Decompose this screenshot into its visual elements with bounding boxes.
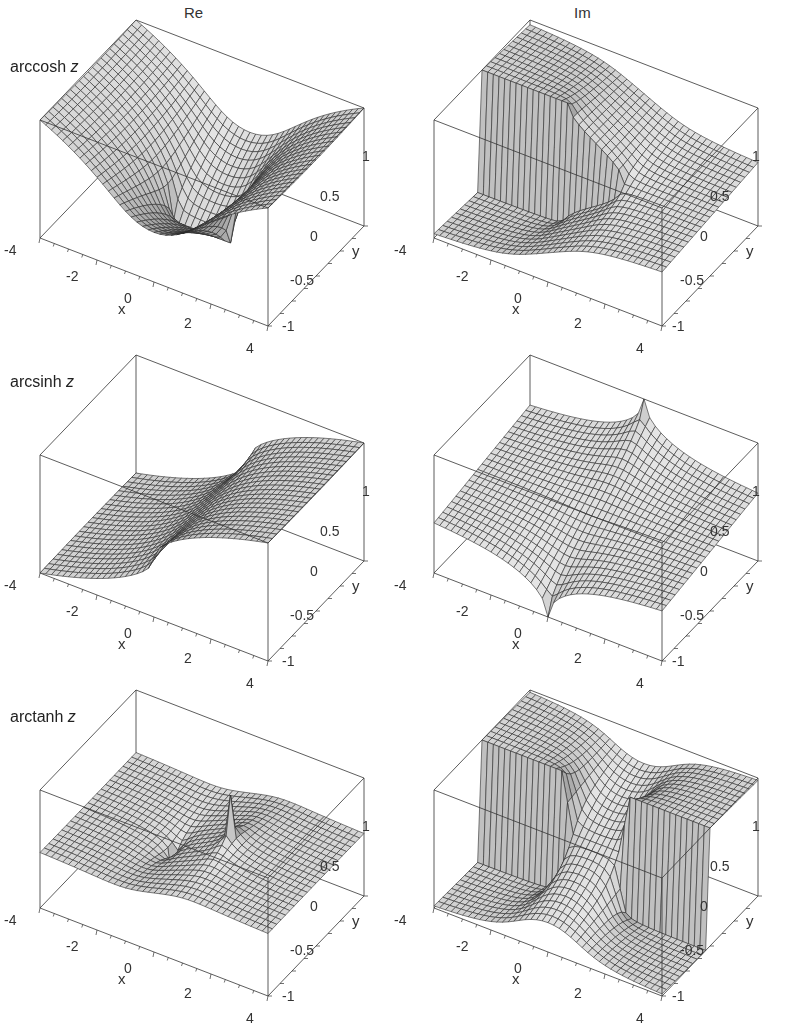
y-tick-label: 1 [752, 148, 760, 164]
x-tick-label: -4 [4, 242, 16, 258]
x-tick-label: -2 [66, 268, 78, 284]
surface-plot-arcsinh-im: -4-2024x-1-0.500.51y [394, 345, 788, 685]
y-tick-label: -0.5 [680, 607, 704, 623]
y-axis-label: y [352, 242, 360, 259]
x-axis-label: x [512, 970, 520, 987]
x-tick-label: 2 [574, 315, 582, 331]
y-tick-label: 0 [310, 228, 318, 244]
y-axis-label: y [746, 912, 754, 929]
x-tick-label: 2 [574, 650, 582, 666]
surface-canvas [0, 680, 394, 1020]
surface-canvas [0, 345, 394, 685]
x-tick-label: -2 [456, 603, 468, 619]
x-tick-label: 4 [636, 1010, 644, 1025]
function-name: arcsinh [10, 373, 62, 390]
y-tick-label: 0 [700, 563, 708, 579]
y-tick-label: 0.5 [320, 523, 339, 539]
x-tick-label: 2 [184, 650, 192, 666]
x-axis-label: x [118, 635, 126, 652]
y-tick-label: -1 [282, 988, 294, 1004]
surface-canvas [394, 345, 788, 685]
x-axis-label: x [118, 970, 126, 987]
y-axis-label: y [352, 577, 360, 594]
y-tick-label: 0.5 [710, 523, 729, 539]
y-tick-label: 1 [362, 818, 370, 834]
y-tick-label: 0 [310, 563, 318, 579]
y-axis-label: y [746, 577, 754, 594]
surface-plot-arccosh-im: -4-2024x-1-0.500.51y [394, 10, 788, 350]
function-name: arctanh [10, 708, 63, 725]
y-tick-label: 0 [310, 898, 318, 914]
y-tick-label: -0.5 [290, 607, 314, 623]
surface-canvas [394, 10, 788, 350]
y-tick-label: 0.5 [320, 858, 339, 874]
y-tick-label: -0.5 [680, 942, 704, 958]
x-tick-label: -4 [394, 912, 406, 928]
x-axis-label: x [512, 300, 520, 317]
x-tick-label: -4 [394, 242, 406, 258]
x-tick-label: -2 [456, 938, 468, 954]
surface-plot-arctanh-im: -4-2024x-1-0.500.51y [394, 680, 788, 1020]
y-tick-label: 0 [700, 898, 708, 914]
y-axis-label: y [746, 242, 754, 259]
y-tick-label: -1 [282, 653, 294, 669]
y-tick-label: 0.5 [710, 858, 729, 874]
x-tick-label: 2 [184, 315, 192, 331]
x-tick-label: 2 [574, 985, 582, 1001]
y-tick-label: 0.5 [320, 188, 339, 204]
y-axis-label: y [352, 912, 360, 929]
y-tick-label: -1 [672, 653, 684, 669]
x-axis-label: x [118, 300, 126, 317]
y-tick-label: 1 [362, 483, 370, 499]
row-label-arctanh: arctanh z [10, 708, 76, 726]
surface-plot-arcsinh-re: -4-2024x-1-0.500.51yarcsinh z [0, 345, 394, 685]
y-tick-label: 0.5 [710, 188, 729, 204]
surface-canvas [394, 680, 788, 1020]
x-tick-label: -2 [66, 938, 78, 954]
function-variable: z [66, 373, 74, 390]
surface-plot-arctanh-re: -4-2024x-1-0.500.51yarctanh z [0, 680, 394, 1020]
x-tick-label: -4 [4, 912, 16, 928]
y-tick-label: 1 [752, 818, 760, 834]
y-tick-label: -1 [282, 318, 294, 334]
x-tick-label: 2 [184, 985, 192, 1001]
surface-plot-arccosh-re: -4-2024x-1-0.500.51yarccosh z [0, 10, 394, 350]
y-tick-label: 1 [362, 148, 370, 164]
y-tick-label: -0.5 [290, 272, 314, 288]
row-label-arccosh: arccosh z [10, 58, 78, 76]
function-variable: z [68, 708, 76, 725]
x-tick-label: -2 [456, 268, 468, 284]
x-tick-label: -4 [394, 577, 406, 593]
y-tick-label: -0.5 [680, 272, 704, 288]
x-tick-label: -2 [66, 603, 78, 619]
y-tick-label: 0 [700, 228, 708, 244]
x-tick-label: 4 [246, 1010, 254, 1025]
function-variable: z [70, 58, 78, 75]
function-name: arccosh [10, 58, 66, 75]
x-tick-label: -4 [4, 577, 16, 593]
y-tick-label: -0.5 [290, 942, 314, 958]
y-tick-label: -1 [672, 318, 684, 334]
y-tick-label: -1 [672, 988, 684, 1004]
y-tick-label: 1 [752, 483, 760, 499]
row-label-arcsinh: arcsinh z [10, 373, 74, 391]
x-axis-label: x [512, 635, 520, 652]
